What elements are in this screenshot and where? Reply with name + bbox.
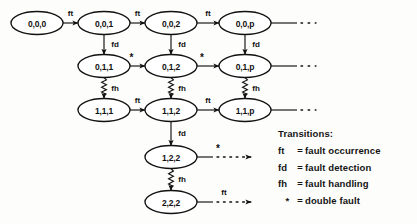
node-label: 0,1,2 <box>162 62 180 72</box>
node-label: 0,1,1 <box>95 62 113 72</box>
node-label: 2,2,2 <box>162 198 180 208</box>
legend-title: Transitions: <box>278 128 413 139</box>
edge-label-ft: ft <box>135 9 141 18</box>
legend-symbol: * <box>278 195 295 206</box>
state-node[interactable]: 0,0,0 <box>11 12 63 35</box>
edge-label-ft: ft <box>221 188 227 197</box>
state-node[interactable]: 1,1,2 <box>145 99 197 122</box>
node-label: 1,1,2 <box>162 106 180 116</box>
legend-item: fd=fault detection <box>278 162 413 173</box>
edge-label-fd: fd <box>252 40 260 49</box>
state-node[interactable]: 0,1,p <box>219 55 271 78</box>
legend-equals: = <box>295 195 305 206</box>
edge-label-star: * <box>216 143 220 154</box>
legend-description: fault handling <box>305 178 413 189</box>
edge-label-star: * <box>200 52 204 63</box>
nodes-layer: 0,0,00,0,10,0,20,0,p0,1,10,1,20,1,p1,1,1… <box>11 12 271 214</box>
edge-label-fh: fh <box>252 84 260 93</box>
legend-equals: = <box>295 162 305 173</box>
legend-description: fault occurrence <box>305 145 413 156</box>
state-node[interactable]: 1,1,p <box>219 99 271 122</box>
node-label: 0,0,0 <box>28 19 46 29</box>
node-label: 0,0,p <box>236 19 254 29</box>
legend-item: ft=fault occurrence <box>278 145 413 156</box>
edge-label-fh: fh <box>178 84 186 93</box>
edge-label-fd: fd <box>178 129 186 138</box>
edge-label-fh: fh <box>178 175 186 184</box>
state-node[interactable]: 0,1,1 <box>78 55 130 78</box>
edge-fh-11 <box>169 78 174 99</box>
state-node[interactable]: 0,0,1 <box>78 12 130 35</box>
node-label: 1,1,1 <box>95 106 113 116</box>
node-label: 0,0,2 <box>162 19 180 29</box>
legend: Transitions: ft=fault occurrencefd=fault… <box>278 128 413 211</box>
legend-description: fault detection <box>305 162 413 173</box>
legend-equals: = <box>295 145 305 156</box>
edge-fh-12 <box>243 78 248 99</box>
state-node[interactable]: 1,1,1 <box>78 99 130 122</box>
legend-equals: = <box>295 178 305 189</box>
node-label: 1,2,2 <box>162 153 180 163</box>
diagram-page: 0,0,00,0,10,0,20,0,p0,1,10,1,20,1,p1,1,1… <box>0 0 417 224</box>
edge-label-fd: fd <box>111 40 119 49</box>
state-node[interactable]: 0,0,2 <box>145 12 197 35</box>
state-node[interactable]: 1,2,2 <box>145 146 197 169</box>
state-node[interactable]: 0,0,p <box>219 12 271 35</box>
edge-label-star: * <box>130 52 134 63</box>
legend-description: double fault <box>305 195 413 206</box>
edge-fh-10 <box>102 78 107 99</box>
edge-label-ft: ft <box>135 96 141 105</box>
legend-item: *=double fault <box>278 195 413 206</box>
edge-fh-18 <box>169 169 174 191</box>
edge-label-fd: fd <box>178 40 186 49</box>
legend-symbol: fd <box>278 162 295 173</box>
edge-label-ft: ft <box>205 9 211 18</box>
state-node[interactable]: 0,1,2 <box>145 55 197 78</box>
legend-item: fh=fault handling <box>278 178 413 189</box>
edge-label-ft: ft <box>68 9 74 18</box>
node-label: 0,1,p <box>236 62 254 72</box>
node-label: 0,0,1 <box>95 19 113 29</box>
state-node[interactable]: 2,2,2 <box>145 191 197 214</box>
legend-symbol: ft <box>278 145 295 156</box>
edge-label-ft: ft <box>205 96 211 105</box>
legend-rows: ft=fault occurrencefd=fault detectionfh=… <box>278 145 413 206</box>
legend-symbol: fh <box>278 178 295 189</box>
node-label: 1,1,p <box>236 106 254 116</box>
edge-label-fh: fh <box>111 84 119 93</box>
